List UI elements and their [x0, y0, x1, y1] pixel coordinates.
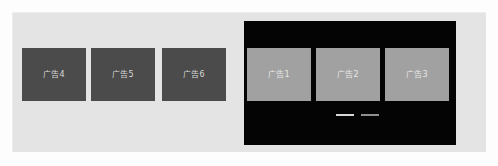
ad-tile-3[interactable]: 广告3 [385, 48, 449, 101]
indicator-dash-1 [336, 114, 354, 116]
ad-tile-2[interactable]: 广告2 [316, 48, 380, 101]
indicator-dashes [336, 114, 384, 118]
ad-tile-6-label: 广告6 [183, 71, 205, 79]
ad-tile-5-label: 广告5 [112, 71, 134, 79]
screenshot-stage: 广告4 广告5 广告6 广告1 广告2 广告3 [0, 0, 498, 166]
ad-tile-1[interactable]: 广告1 [247, 48, 311, 101]
indicator-dash-2 [361, 114, 379, 116]
ad-tile-3-label: 广告3 [406, 71, 428, 79]
right-ad-tile-row: 广告1 广告2 广告3 [247, 48, 449, 101]
left-ad-tile-row: 广告4 广告5 广告6 [22, 48, 227, 101]
ad-tile-4-label: 广告4 [43, 71, 65, 79]
ad-tile-4[interactable]: 广告4 [22, 48, 86, 101]
ad-tile-6[interactable]: 广告6 [162, 48, 226, 101]
ad-tile-2-label: 广告2 [337, 71, 359, 79]
ad-tile-1-label: 广告1 [268, 71, 290, 79]
ad-tile-5[interactable]: 广告5 [91, 48, 155, 101]
